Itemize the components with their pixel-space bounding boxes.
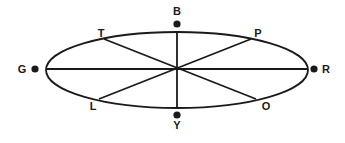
point-label-P: P <box>254 27 261 39</box>
endpoint-dot-B <box>173 20 180 27</box>
point-label-O: O <box>262 100 271 112</box>
point-label-T: T <box>98 27 105 39</box>
endpoint-dot-Y <box>173 111 180 118</box>
ellipse-diagram-svg: G R B Y T P L O <box>0 0 345 143</box>
point-label-B: B <box>173 5 181 17</box>
endpoint-dot-R <box>310 65 317 72</box>
point-label-Y: Y <box>173 119 181 131</box>
point-label-R: R <box>322 63 330 75</box>
endpoint-dot-G <box>31 65 38 72</box>
point-label-L: L <box>90 100 97 112</box>
ellipse-diagram-canvas: G R B Y T P L O <box>0 0 345 143</box>
point-label-G: G <box>18 63 27 75</box>
